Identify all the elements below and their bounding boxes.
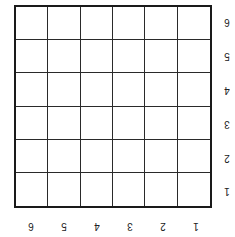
grid-cell (178, 140, 210, 173)
row-label: 4 (220, 84, 234, 96)
grid-cell (16, 173, 48, 206)
grid-cell (16, 7, 48, 40)
grid-cell (48, 73, 80, 106)
grid-cell (113, 140, 145, 173)
grid-cell (81, 73, 113, 106)
grid-cell (145, 140, 177, 173)
column-label: 2 (156, 220, 170, 232)
grid-cell (48, 7, 80, 40)
grid-cell (145, 40, 177, 73)
grid-cell (81, 140, 113, 173)
grid-cell (178, 107, 210, 140)
grid-cell (81, 173, 113, 206)
grid-cell (16, 40, 48, 73)
row-label: 5 (220, 50, 234, 62)
grid-cell (145, 7, 177, 40)
grid-cell (113, 173, 145, 206)
grid-cell (16, 107, 48, 140)
grid-cell (48, 173, 80, 206)
grid-cell (145, 73, 177, 106)
row-label: 3 (220, 118, 234, 130)
column-label: 3 (123, 220, 137, 232)
grid-cell (178, 40, 210, 73)
grid-cell (145, 107, 177, 140)
grid-cell (48, 140, 80, 173)
grid-6x6 (14, 5, 212, 208)
row-label: 6 (220, 16, 234, 28)
grid-cell (81, 107, 113, 140)
row-label: 2 (220, 152, 234, 164)
grid-cell (48, 107, 80, 140)
grid-cell (113, 107, 145, 140)
grid-cell (48, 40, 80, 73)
column-label: 6 (24, 220, 38, 232)
column-label: 5 (57, 220, 71, 232)
grid-cell (178, 7, 210, 40)
grid-cell (81, 40, 113, 73)
grid-cell (178, 73, 210, 106)
grid-cell (113, 7, 145, 40)
grid-cell (145, 173, 177, 206)
column-label: 4 (90, 220, 104, 232)
column-label: 1 (189, 220, 203, 232)
grid-cell (178, 173, 210, 206)
grid-cell (16, 73, 48, 106)
grid-cell (16, 140, 48, 173)
grid-cell (81, 7, 113, 40)
grid-cell (113, 40, 145, 73)
grid-cell (113, 73, 145, 106)
row-label: 1 (220, 185, 234, 197)
